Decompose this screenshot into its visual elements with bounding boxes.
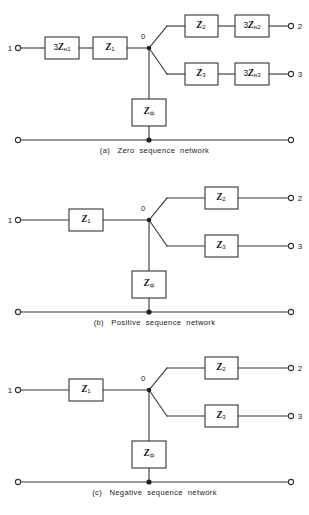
terminal-ground-right [288,309,293,314]
junction-ground [146,137,151,142]
label-branch-top-1: Z2 [216,363,225,373]
figure-zero-sequence-network: 3Zн1 Z1 Z2 3Zн2 Z3 3Zн3 Zф 1 2 3 0 (a) Z… [0,0,309,170]
terminal-label-output-bottom: 3 [298,412,302,421]
wire-fork-lower [149,390,167,416]
terminal-label-input: 1 [8,216,12,225]
terminal-label-output-bottom: 3 [298,70,302,79]
wire-fork-lower [149,220,167,246]
node-label-0: 0 [141,32,145,41]
terminal-label-output-top: 2 [298,194,302,203]
junction-node-0 [147,388,152,393]
terminal-ground-right [288,479,293,484]
wire-fork-upper [149,198,167,220]
positive-sequence-schematic [0,172,309,320]
terminal-output-top [288,23,293,28]
terminal-output-top [288,365,293,370]
label-branch-bottom-1: Z3 [216,411,225,421]
terminal-output-bottom [288,413,293,418]
label-branch-bottom-1: Z3 [196,69,205,79]
figure-caption-b: (b) Positive sequence network [0,318,309,327]
negative-sequence-schematic [0,342,309,490]
terminal-label-input: 1 [8,386,12,395]
figure-caption-a: (a) Zero sequence network [0,146,309,155]
figure-caption-c: (c) Negative sequence network [0,488,309,497]
figure-positive-sequence-network: Z1 Z2 Z3 Zф 1 2 3 0 (b) Positive sequenc… [0,172,309,342]
junction-node-0 [147,218,152,223]
label-shunt: Zф [144,107,155,117]
terminal-ground-left [15,309,20,314]
terminal-label-input: 1 [8,44,12,53]
label-series-2: Z1 [105,43,114,53]
label-series-1: 3Zн1 [53,43,70,53]
junction-ground [146,309,151,314]
label-branch-bottom-1: Z3 [216,241,225,251]
terminal-label-output-top: 2 [298,22,302,31]
zero-sequence-schematic [0,0,309,148]
label-branch-top-1: Z2 [196,21,205,31]
label-branch-top-1: Z2 [216,193,225,203]
label-branch-top-2: 3Zн2 [243,21,260,31]
terminal-label-output-bottom: 3 [298,242,302,251]
wire-fork-upper [149,26,167,48]
terminal-input [15,387,20,392]
figure-negative-sequence-network: Z1 Z2 Z3 Zф 1 2 3 0 (c) Negative sequenc… [0,342,309,512]
node-label-0: 0 [141,374,145,383]
node-label-0: 0 [141,204,145,213]
label-shunt: Zф [144,449,155,459]
terminal-ground-right [288,137,293,142]
terminal-ground-left [15,479,20,484]
terminal-output-bottom [288,243,293,248]
junction-node-0 [147,46,152,51]
wire-fork-lower [149,48,167,74]
terminal-input [15,45,20,50]
label-series-1: Z1 [81,215,90,225]
label-branch-bottom-2: 3Zн3 [243,69,260,79]
junction-ground [146,479,151,484]
label-series-1: Z1 [81,385,90,395]
terminal-output-bottom [288,71,293,76]
terminal-input [15,217,20,222]
wire-fork-upper [149,368,167,390]
terminal-ground-left [15,137,20,142]
terminal-label-output-top: 2 [298,364,302,373]
label-shunt: Zф [144,279,155,289]
terminal-output-top [288,195,293,200]
